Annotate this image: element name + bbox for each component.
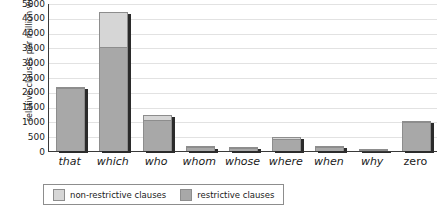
legend-item: restrictive clauses xyxy=(180,189,274,201)
bar-segment-restrictive xyxy=(402,122,431,151)
y-axis-tick-label: 4500 xyxy=(3,14,45,23)
bar-stack xyxy=(99,12,128,151)
bar-stack xyxy=(315,146,344,151)
chart-legend: non-restrictive clausesrestrictive claus… xyxy=(43,184,284,205)
bar-segment-restrictive xyxy=(186,147,215,151)
legend-label: non-restrictive clauses xyxy=(70,190,166,200)
bar-stack xyxy=(402,121,431,151)
bar-stack xyxy=(56,87,85,151)
y-axis-tick-label: 500 xyxy=(3,133,45,142)
y-axis-tick-label: 2000 xyxy=(3,88,45,97)
x-axis-tick-labels: thatwhichwhowhomwhosewherewhenwhyzero xyxy=(48,155,437,173)
bar-that xyxy=(56,87,85,151)
bar-stack xyxy=(272,137,301,151)
bar-stack xyxy=(229,147,258,151)
y-axis-tick-label: 3000 xyxy=(3,59,45,68)
bar-when xyxy=(315,146,344,151)
legend-label: restrictive clauses xyxy=(197,190,274,200)
y-axis-tick-label: 1000 xyxy=(3,118,45,127)
y-axis-tick-label: 1500 xyxy=(3,103,45,112)
plot-area xyxy=(48,4,437,152)
legend-swatch xyxy=(53,189,65,201)
bar-which xyxy=(99,12,128,151)
bar-where xyxy=(272,137,301,151)
bar-stack xyxy=(143,115,172,151)
y-axis-tick-label: 3500 xyxy=(3,44,45,53)
bar-stack xyxy=(359,149,388,151)
bar-who xyxy=(143,115,172,151)
bar-segment-non-restrictive xyxy=(99,12,128,47)
x-axis-tick-label-zero: zero xyxy=(375,155,442,169)
bar-segment-restrictive xyxy=(99,47,128,151)
bar-chart: relative clauses per million words 50004… xyxy=(0,0,442,210)
bar-whose xyxy=(229,147,258,151)
y-axis-tick-label: 5000 xyxy=(3,0,45,9)
bar-whom xyxy=(186,147,215,151)
bar-stack xyxy=(186,146,215,151)
legend-swatch xyxy=(180,189,192,201)
y-axis-tick-label: 4000 xyxy=(3,29,45,38)
bar-why xyxy=(359,150,388,151)
bar-shadow xyxy=(362,152,391,153)
bar-segment-restrictive xyxy=(272,139,301,151)
y-axis-tick-label: 2500 xyxy=(3,74,45,83)
bar-zero xyxy=(402,121,431,151)
bar-segment-restrictive xyxy=(315,147,344,151)
bar-segment-restrictive xyxy=(56,88,85,151)
y-axis-tick-labels: 5000450040003500300025002000150010005000 xyxy=(0,4,45,152)
legend-item: non-restrictive clauses xyxy=(53,189,166,201)
bars-layer xyxy=(49,4,437,151)
bar-segment-restrictive xyxy=(229,148,258,151)
bar-segment-restrictive xyxy=(143,120,172,151)
bar-segment-restrictive xyxy=(359,150,388,151)
